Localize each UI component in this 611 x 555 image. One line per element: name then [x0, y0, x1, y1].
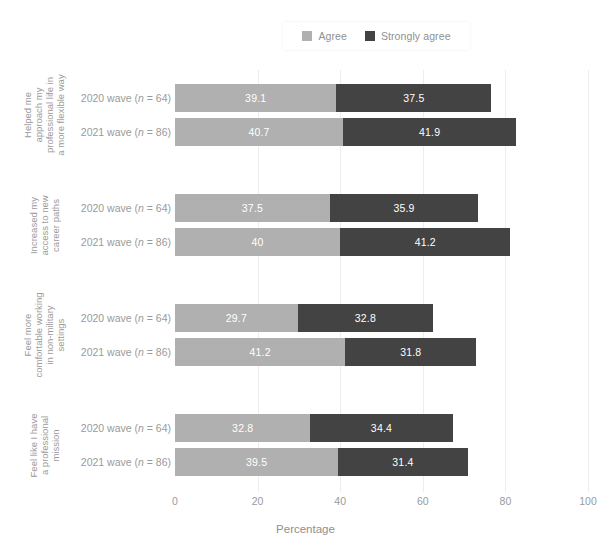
bar-value-strongly-agree: 41.2 [415, 236, 436, 248]
wave-tick-label: 2021 wave (n = 86) [81, 228, 171, 256]
bar-row[interactable]: 4041.2 [175, 228, 510, 256]
bar-row[interactable]: 41.231.8 [175, 338, 476, 366]
group-title-line: Feel like I have [28, 370, 39, 520]
bar-row[interactable]: 29.732.8 [175, 304, 433, 332]
x-tick-label-100: 100 [579, 495, 597, 507]
bar-segment-strongly-agree[interactable]: 35.9 [330, 194, 478, 222]
bar-segment-agree[interactable]: 39.5 [175, 448, 338, 476]
bar-value-strongly-agree: 41.9 [419, 126, 440, 138]
x-tick-label-40: 40 [334, 495, 346, 507]
x-axis: 020406080100 [175, 495, 588, 515]
wave-tick-label: 2020 wave (n = 64) [81, 194, 171, 222]
bar-value-agree: 39.1 [245, 92, 266, 104]
bar-row[interactable]: 39.137.5 [175, 84, 491, 112]
bar-segment-agree[interactable]: 32.8 [175, 414, 310, 442]
x-tick-label-20: 20 [252, 495, 264, 507]
bar-value-strongly-agree: 34.4 [371, 422, 392, 434]
x-axis-title: Percentage [0, 523, 611, 535]
gridline-100 [588, 70, 589, 492]
bar-value-agree: 29.7 [226, 312, 247, 324]
bar-value-strongly-agree: 31.8 [400, 346, 421, 358]
x-tick-label-0: 0 [172, 495, 178, 507]
group-title-line: a professional [39, 370, 50, 520]
bar-row[interactable]: 39.531.4 [175, 448, 468, 476]
bar-segment-strongly-agree[interactable]: 31.4 [338, 448, 468, 476]
wave-tick-label: 2021 wave (n = 86) [81, 448, 171, 476]
legend-label-agree: Agree [318, 30, 347, 42]
x-tick-label-60: 60 [417, 495, 429, 507]
bar-value-agree: 37.5 [242, 202, 263, 214]
bar-value-agree: 39.5 [246, 456, 267, 468]
bar-value-strongly-agree: 37.5 [403, 92, 424, 104]
bar-segment-strongly-agree[interactable]: 34.4 [310, 414, 452, 442]
group-title: Feel like I havea professionalmission [28, 370, 61, 520]
bar-segment-agree[interactable]: 41.2 [175, 338, 345, 366]
bar-segment-agree[interactable]: 40 [175, 228, 340, 256]
wave-tick-label: 2020 wave (n = 64) [81, 84, 171, 112]
bar-value-agree: 40.7 [248, 126, 269, 138]
wave-tick-label: 2021 wave (n = 86) [81, 118, 171, 146]
bar-value-agree: 41.2 [249, 346, 270, 358]
bar-value-strongly-agree: 35.9 [393, 202, 414, 214]
chart-legend: Agree Strongly agree [283, 22, 470, 50]
bar-segment-agree[interactable]: 37.5 [175, 194, 330, 222]
stacked-bar-chart: Agree Strongly agree 39.137.540.741.937.… [0, 0, 611, 555]
bar-row[interactable]: 37.535.9 [175, 194, 478, 222]
legend-entry-agree: Agree [302, 30, 347, 42]
wave-tick-label: 2021 wave (n = 86) [81, 338, 171, 366]
bar-value-agree: 32.8 [232, 422, 253, 434]
wave-tick-label: 2020 wave (n = 64) [81, 304, 171, 332]
bar-segment-agree[interactable]: 40.7 [175, 118, 343, 146]
legend-swatch-agree [302, 31, 312, 41]
bar-segment-strongly-agree[interactable]: 41.2 [340, 228, 510, 256]
bar-segment-agree[interactable]: 29.7 [175, 304, 298, 332]
bar-segment-strongly-agree[interactable]: 31.8 [345, 338, 476, 366]
bar-segment-strongly-agree[interactable]: 41.9 [343, 118, 516, 146]
wave-tick-label: 2020 wave (n = 64) [81, 414, 171, 442]
x-tick-label-80: 80 [500, 495, 512, 507]
bar-value-strongly-agree: 31.4 [392, 456, 413, 468]
plot-area: 39.137.540.741.937.535.94041.229.732.841… [175, 70, 588, 492]
legend-swatch-strongly-agree [365, 31, 375, 41]
bar-row[interactable]: 40.741.9 [175, 118, 516, 146]
bar-row[interactable]: 32.834.4 [175, 414, 453, 442]
bar-segment-agree[interactable]: 39.1 [175, 84, 336, 112]
bar-value-strongly-agree: 32.8 [355, 312, 376, 324]
bar-value-agree: 40 [252, 236, 264, 248]
bar-segment-strongly-agree[interactable]: 32.8 [298, 304, 433, 332]
legend-entry-strongly-agree: Strongly agree [365, 30, 451, 42]
legend-label-strongly-agree: Strongly agree [381, 30, 451, 42]
bar-segment-strongly-agree[interactable]: 37.5 [336, 84, 491, 112]
group-title-line: mission [50, 370, 61, 520]
